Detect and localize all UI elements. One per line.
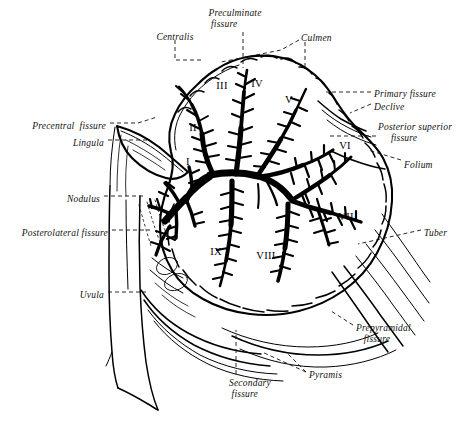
label-prepyramidal-fissure: Prepyramidal fissure xyxy=(356,323,411,344)
numeral-lobule-7: VII xyxy=(338,211,353,222)
numeral-lobule-9: IX xyxy=(210,246,222,257)
label-lingula: Lingula xyxy=(73,138,104,149)
cerebellum-illustration: .out { fill:none; stroke:#000; stroke-wi… xyxy=(0,0,466,429)
label-culmen: Culmen xyxy=(301,33,332,44)
label-preculminate-fissure: Preculminate fissure xyxy=(208,8,261,29)
numeral-lobule-6: VI xyxy=(339,140,351,151)
label-posterior-superior-fissure: Posterior superior fissure xyxy=(378,122,452,143)
numeral-lobule-2: II xyxy=(189,122,197,133)
label-declive: Declive xyxy=(374,102,404,113)
lingula-structure xyxy=(110,126,188,196)
label-primary-fissure: Primary fissure xyxy=(374,89,436,100)
inferior-folia-bands xyxy=(139,200,430,381)
label-precentral-fissure: Precentral fissure xyxy=(32,121,106,132)
numeral-lobule-4: IV xyxy=(251,78,263,89)
figure-canvas: .out { fill:none; stroke:#000; stroke-wi… xyxy=(0,0,466,429)
label-secondary-fissure: Secondary fissure xyxy=(229,378,271,399)
label-folium: Folium xyxy=(404,160,433,171)
numeral-lobule-1: I xyxy=(186,156,190,167)
numeral-lobule-10: X xyxy=(182,195,190,206)
label-uvula: Uvula xyxy=(80,290,104,301)
label-nodulus: Nodulus xyxy=(67,194,100,205)
brainstem-peduncle xyxy=(106,186,158,410)
numeral-lobule-5: V xyxy=(285,94,293,105)
label-posterolateral-fissure: Posterolateral fissure xyxy=(22,228,108,239)
numeral-lobule-3: III xyxy=(216,80,227,91)
label-pyramis: Pyramis xyxy=(309,370,342,381)
label-centralis: Centralis xyxy=(156,32,193,43)
label-tuber: Tuber xyxy=(424,228,447,239)
numeral-lobule-8: VIII xyxy=(256,250,275,261)
